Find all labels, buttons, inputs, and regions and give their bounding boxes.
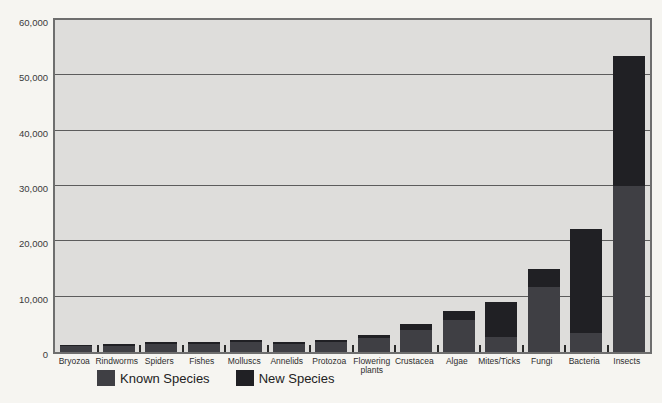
x-tick — [607, 345, 609, 352]
y-tick-label-60000: 60,000 — [19, 17, 48, 28]
legend-item-known-species: Known Species — [97, 370, 210, 386]
bar-crustacea — [400, 324, 432, 352]
bar-protozoa — [315, 340, 347, 352]
bar-fishes — [188, 342, 220, 352]
x-label-crustacea: Crustacea — [391, 357, 437, 366]
x-label-annelids: Annelids — [264, 357, 310, 366]
x-tick — [182, 345, 184, 352]
x-tick — [224, 345, 226, 352]
x-label-rindworms: Rindworms — [94, 357, 140, 366]
new-species-label: New Species — [259, 371, 335, 386]
y-tick-label-0: 0 — [43, 349, 48, 360]
x-tick — [309, 345, 311, 352]
new-species-segment — [485, 302, 517, 336]
known-species-label: Known Species — [120, 371, 210, 386]
x-label-spiders: Spiders — [136, 357, 182, 366]
known-species-segment — [273, 344, 305, 352]
x-tick — [394, 345, 396, 352]
x-tick — [139, 345, 141, 352]
gridline-30000 — [55, 185, 650, 186]
gridline-50000 — [55, 74, 650, 75]
x-label-bacteria: Bacteria — [561, 357, 607, 366]
new-species-segment — [528, 269, 560, 287]
known-species-segment — [613, 186, 645, 352]
bar-rindworms — [103, 344, 135, 352]
bar-annelids — [273, 342, 305, 353]
x-tick — [97, 345, 99, 352]
x-tick — [522, 345, 524, 352]
new-species-segment — [613, 56, 645, 186]
x-label-protozoa: Protozoa — [306, 357, 352, 366]
known-species-segment — [443, 320, 475, 352]
gridline-20000 — [55, 240, 650, 241]
x-tick — [564, 345, 566, 352]
gridline-10000 — [55, 296, 650, 297]
y-tick-label-40000: 40,000 — [19, 127, 48, 138]
known-species-segment — [103, 346, 135, 352]
bar-molluscs — [230, 340, 262, 352]
bar-bryozoa — [60, 345, 92, 352]
bar-mites-ticks — [485, 302, 517, 352]
known-species-segment — [485, 337, 517, 352]
x-label-flowering-plants: Flowering plants — [349, 357, 395, 376]
bar-fungi — [528, 269, 560, 352]
gridline-40000 — [55, 130, 650, 131]
plot-area — [53, 18, 652, 354]
x-tick — [352, 345, 354, 352]
y-tick-label-50000: 50,000 — [19, 72, 48, 83]
x-label-insects: Insects — [604, 357, 650, 366]
known-species-segment — [315, 342, 347, 352]
known-species-segment — [188, 344, 220, 352]
known-species-segment — [528, 287, 560, 352]
bar-flowering-plants — [358, 335, 390, 352]
known-species-segment — [358, 338, 390, 352]
known-species-segment — [230, 342, 262, 352]
known-species-swatch — [97, 370, 115, 386]
x-tick — [267, 345, 269, 352]
new-species-segment — [570, 229, 602, 333]
known-species-segment — [145, 344, 177, 352]
legend: Known Species New Species — [97, 370, 335, 386]
x-label-bryozoa: Bryozoa — [51, 357, 97, 366]
bar-algae — [443, 311, 475, 352]
new-species-segment — [443, 311, 475, 320]
x-label-fungi: Fungi — [519, 357, 565, 366]
x-label-molluscs: Molluscs — [221, 357, 267, 366]
x-tick — [479, 345, 481, 352]
new-species-swatch — [236, 370, 254, 386]
x-label-mites-ticks: Mites/Ticks — [476, 357, 522, 366]
y-tick-label-20000: 20,000 — [19, 238, 48, 249]
x-label-fishes: Fishes — [179, 357, 225, 366]
species-bar-chart: 010,00020,00030,00040,00050,00060,000 Br… — [0, 0, 662, 403]
y-tick-label-30000: 30,000 — [19, 183, 48, 194]
known-species-segment — [570, 333, 602, 352]
x-tick — [437, 345, 439, 352]
y-tick-label-10000: 10,000 — [19, 293, 48, 304]
bar-spiders — [145, 342, 177, 353]
legend-item-new-species: New Species — [236, 370, 335, 386]
known-species-segment — [60, 346, 92, 352]
x-label-algae: Algae — [434, 357, 480, 366]
bar-bacteria — [570, 229, 602, 352]
bar-insects — [613, 56, 645, 352]
known-species-segment — [400, 330, 432, 352]
